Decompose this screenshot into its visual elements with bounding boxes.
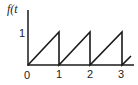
y-axis-label: f(t [7, 3, 18, 15]
x-tick-1: 1 [56, 69, 62, 80]
sawtooth-line [28, 32, 131, 65]
x-tick-0: 0 [24, 70, 30, 81]
y-tick-1: 1 [19, 28, 25, 39]
x-tick-2: 2 [87, 69, 93, 80]
x-tick-3: 3 [118, 69, 124, 80]
